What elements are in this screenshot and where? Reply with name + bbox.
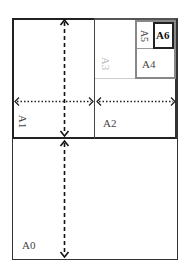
vertical-dashed-arrow-bottom (61, 141, 69, 257)
label-a6: A6 (156, 30, 169, 41)
label-a1: A1 (17, 115, 28, 128)
label-a2: A2 (103, 118, 116, 129)
dimension-arrows (0, 0, 188, 276)
label-a4: A4 (142, 59, 155, 70)
vertical-dashed-arrow-top (61, 20, 69, 136)
label-a0: A0 (22, 240, 35, 251)
label-a5: A5 (139, 30, 149, 42)
horizontal-dotted-arrow-left (15, 98, 93, 106)
label-a3: A3 (100, 57, 111, 70)
horizontal-dotted-arrow-right (97, 98, 175, 106)
